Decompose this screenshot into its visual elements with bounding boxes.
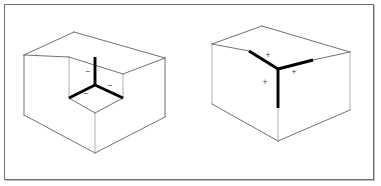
edge-top-back-left — [212, 26, 262, 44]
edge-outer-right-base — [95, 117, 165, 153]
concave-junction-labels: − − − — [84, 66, 113, 98]
figure-root: − − − + — [0, 0, 381, 186]
junction-label-plus-right: + — [292, 67, 297, 77]
edge-floor-right — [95, 98, 123, 113]
junction-arm-lower-left — [69, 85, 95, 98]
edge-top-front-left — [212, 44, 249, 51]
edge-floor-left — [69, 98, 95, 113]
junction-label-minus-up: − — [86, 66, 91, 76]
junction-label-plus-lower-left: + — [263, 77, 268, 87]
figure-drawing-canvas: − − − + — [0, 0, 381, 186]
edge-top-front-right — [313, 52, 350, 60]
convex-corner-figure: + + + — [212, 26, 350, 141]
edge-notch-left — [24, 55, 69, 57]
junction-label-minus-right: − — [108, 80, 113, 90]
edge-top-back-right — [74, 32, 165, 58]
convex-thin-edges — [212, 26, 350, 141]
junction-arm-upper-left — [249, 51, 278, 69]
edge-top-back-right — [262, 26, 350, 52]
concave-junction-thick-lines — [69, 57, 123, 98]
edge-base-left — [212, 104, 278, 141]
convex-junction-thick-lines — [249, 51, 313, 108]
junction-label-plus-upper-left: + — [266, 50, 271, 60]
concave-thin-edges — [24, 32, 165, 153]
edge-outer-left-base — [24, 115, 95, 153]
junction-label-minus-lower-left: − — [84, 88, 89, 98]
edge-base-right — [278, 110, 350, 141]
concave-corner-figure: − − − — [24, 32, 165, 153]
edge-top-front-right — [123, 58, 165, 74]
edge-top-back-left — [24, 32, 74, 55]
